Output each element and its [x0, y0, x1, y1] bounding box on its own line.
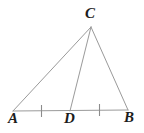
segment-CB: [91, 27, 128, 110]
segment-AC: [13, 27, 91, 111]
vertex-label-c: C: [85, 6, 95, 21]
segment-CD: [70, 27, 91, 111]
vertex-label-b: B: [124, 110, 134, 125]
geometry-figure: C A D B: [0, 0, 144, 133]
vertex-label-d: D: [64, 111, 75, 126]
vertex-label-a: A: [8, 111, 18, 126]
